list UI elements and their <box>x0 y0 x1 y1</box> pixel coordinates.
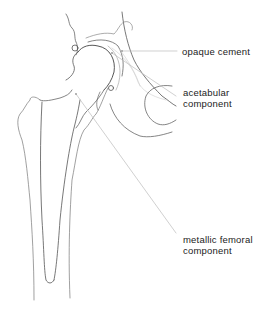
stem-right <box>54 100 80 280</box>
iliac-crest <box>86 22 133 38</box>
label-acetabular-component: acetabular component <box>183 87 232 109</box>
leader-femoral <box>76 94 176 233</box>
label-acetabular-line2: component <box>183 98 232 109</box>
femoral-head <box>78 45 114 90</box>
cup-marker-bottom <box>109 86 114 91</box>
label-femoral-line2: component <box>183 245 253 256</box>
femoral-neck-left <box>66 52 78 80</box>
femur-medial <box>69 88 108 298</box>
ischium-lower <box>110 104 172 137</box>
label-acetabular-line1: acetabular <box>183 87 232 98</box>
label-femoral-line1: metallic femoral <box>183 234 253 245</box>
greater-trochanter <box>18 97 40 300</box>
femur-top <box>40 90 72 101</box>
stem-left <box>41 102 55 283</box>
label-opaque-cement: opaque cement <box>182 46 250 57</box>
obturator-foramen <box>145 85 176 124</box>
label-metallic-femoral-component: metallic femoral component <box>183 234 253 256</box>
